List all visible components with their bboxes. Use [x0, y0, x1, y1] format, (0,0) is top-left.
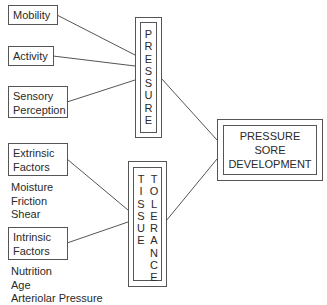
pressure-letter: P: [145, 28, 152, 40]
pressure-letter: U: [145, 89, 153, 101]
pressure-box: PRESSURE: [135, 17, 162, 138]
pressure-letter: S: [145, 65, 152, 77]
mobility-box: Mobility: [8, 5, 58, 25]
pressure-letter: E: [145, 114, 152, 126]
extrinsic-items: Moisture Friction Shear: [11, 181, 53, 222]
link-intrinsic-tissue: [67, 222, 128, 243]
extrinsic-item: Shear: [11, 208, 53, 222]
link-tissue-outcome: [166, 159, 217, 221]
tolerance-letter: R: [150, 222, 158, 234]
tissue-tolerance-box: TISSUE TOLERANCE: [128, 161, 167, 287]
link-activity-pressure: [53, 56, 135, 66]
tissue-letter: U: [137, 222, 145, 234]
tissue-letter: S: [137, 198, 144, 210]
intrinsic-item: Nutrition: [11, 265, 103, 279]
intrinsic-item: Age: [11, 279, 103, 293]
outcome-line: DEVELOPMENT: [218, 157, 322, 171]
pressure-sore-development-label: PRESSURE SORE DEVELOPMENT: [218, 129, 322, 171]
tissue-letter: E: [137, 234, 144, 246]
tolerance-letter: T: [151, 173, 158, 185]
tissue-letter: I: [139, 185, 142, 197]
extrinsic-label-line2: Factors: [13, 160, 63, 174]
extrinsic-item: Moisture: [11, 181, 53, 195]
link-mobility-pressure: [57, 15, 135, 55]
intrinsic-items: Nutrition Age Arteriolar Pressure: [11, 265, 103, 305]
activity-box: Activity: [8, 46, 54, 66]
tolerance-label: TOLERANCE: [148, 173, 160, 284]
intrinsic-label-line2: Factors: [13, 244, 63, 258]
sensory-label-line2: Perception: [13, 103, 63, 117]
pressure-label: PRESSURE: [136, 28, 161, 126]
pressure-sore-development-box: PRESSURE SORE DEVELOPMENT: [217, 119, 323, 181]
extrinsic-factors-box: Extrinsic Factors: [8, 143, 68, 176]
tissue-label: TISSUE: [135, 173, 147, 247]
pressure-letter: E: [145, 53, 152, 65]
intrinsic-factors-box: Intrinsic Factors: [8, 227, 68, 260]
link-sensory-pressure: [67, 80, 135, 102]
link-pressure-outcome: [161, 78, 217, 140]
outcome-line: SORE: [218, 143, 322, 157]
tolerance-letter: L: [151, 198, 157, 210]
tolerance-letter: E: [150, 210, 157, 222]
link-extrinsic-tissue: [67, 159, 128, 210]
mobility-label: Mobility: [13, 9, 50, 21]
tolerance-letter: E: [150, 271, 157, 283]
tolerance-letter: N: [150, 247, 158, 259]
tissue-letter: T: [138, 173, 145, 185]
pressure-letter: R: [145, 40, 153, 52]
sensory-label-line1: Sensory: [13, 89, 63, 103]
tolerance-letter: O: [150, 185, 159, 197]
tissue-letter: S: [137, 210, 144, 222]
outcome-line: PRESSURE: [218, 129, 322, 143]
extrinsic-label-line1: Extrinsic: [13, 146, 63, 160]
tolerance-letter: C: [150, 259, 158, 271]
pressure-letter: R: [145, 102, 153, 114]
sensory-perception-box: Sensory Perception: [8, 86, 68, 118]
intrinsic-label-line1: Intrinsic: [13, 230, 63, 244]
extrinsic-item: Friction: [11, 195, 53, 209]
intrinsic-item: Arteriolar Pressure: [11, 292, 103, 305]
tolerance-letter: A: [150, 234, 157, 246]
activity-label: Activity: [13, 50, 48, 62]
pressure-letter: S: [145, 77, 152, 89]
